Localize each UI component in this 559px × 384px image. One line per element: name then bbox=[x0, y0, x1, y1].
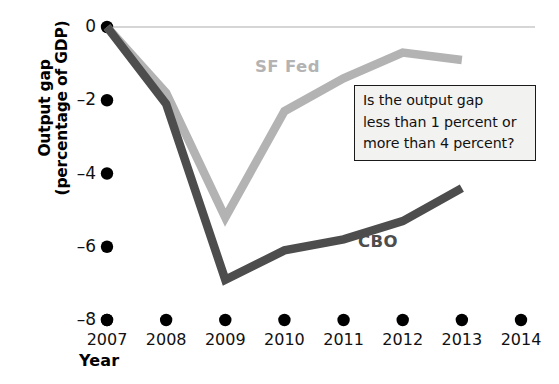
annotation-textbox: Is the output gap less than 1 percent or… bbox=[354, 85, 536, 161]
x-tick-label: 2012 bbox=[373, 330, 433, 349]
series-label-sf-fed: SF Fed bbox=[255, 57, 320, 76]
x-tick-label: 2011 bbox=[314, 330, 374, 349]
x-tick-dot bbox=[160, 314, 172, 326]
x-tick-dot bbox=[515, 314, 527, 326]
chart-container: Output gap (percentage of GDP) 0–2–4–6–8… bbox=[0, 0, 559, 384]
x-tick-label: 2007 bbox=[77, 330, 137, 349]
x-axis-title: Year bbox=[79, 351, 119, 370]
x-tick-dot bbox=[101, 314, 113, 326]
x-tick-label: 2013 bbox=[432, 330, 492, 349]
y-axis-tick-dots bbox=[101, 21, 113, 326]
x-tick-label: 2008 bbox=[136, 330, 196, 349]
y-tick-dot bbox=[101, 167, 113, 179]
annotation-line-3: more than 4 percent? bbox=[363, 133, 528, 155]
x-tick-dot bbox=[278, 314, 290, 326]
y-tick-dot bbox=[101, 94, 113, 106]
x-tick-dot bbox=[219, 314, 231, 326]
y-tick-label: 0 bbox=[56, 16, 96, 36]
y-tick-label: –2 bbox=[56, 89, 96, 109]
y-tick-label: –8 bbox=[56, 309, 96, 329]
x-tick-dot bbox=[456, 314, 468, 326]
y-tick-label: –4 bbox=[56, 163, 96, 183]
annotation-line-1: Is the output gap bbox=[363, 90, 528, 112]
x-axis-tick-dots bbox=[101, 314, 527, 326]
y-tick-dot bbox=[101, 241, 113, 253]
x-tick-label: 2014 bbox=[491, 330, 551, 349]
y-tick-label: –6 bbox=[56, 236, 96, 256]
series-label-cbo: CBO bbox=[358, 232, 398, 251]
annotation-line-2: less than 1 percent or bbox=[363, 112, 528, 134]
x-tick-dot bbox=[337, 314, 349, 326]
x-tick-label: 2009 bbox=[195, 330, 255, 349]
x-tick-dot bbox=[397, 314, 409, 326]
x-tick-label: 2010 bbox=[254, 330, 314, 349]
